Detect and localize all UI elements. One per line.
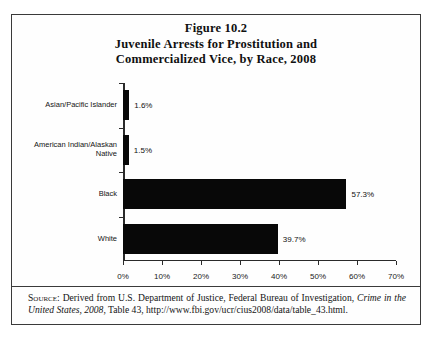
x-tick-mark xyxy=(162,261,163,265)
category-label: White xyxy=(17,234,117,244)
bar-row: 1.6% xyxy=(123,90,396,120)
x-tick-label: 50% xyxy=(310,272,326,281)
y-tick-mark xyxy=(119,217,123,218)
bar-value-label: 1.6% xyxy=(134,101,152,110)
source-text-part-2: , Table 43, http://www.fbi.gov/ucr/cius2… xyxy=(103,304,347,315)
figure-frame: Figure 10.2 Juvenile Arrests for Prostit… xyxy=(11,14,421,325)
x-tick-label: 0% xyxy=(117,272,129,281)
figure-title-line-2: Juvenile Arrests for Prostitution and xyxy=(12,37,420,53)
y-tick-mark xyxy=(119,83,123,84)
figure-title-line-3: Commercialized Vice, by Race, 2008 xyxy=(12,52,420,68)
bar-row: 57.3% xyxy=(123,179,396,209)
source-label: Source: xyxy=(28,292,60,303)
x-tick-label: 20% xyxy=(193,272,209,281)
source-note: Source: Derived from U.S. Department of … xyxy=(28,292,406,316)
category-label: American Indian/Alaskan Native xyxy=(17,140,117,159)
x-tick-label: 10% xyxy=(154,272,170,281)
bar xyxy=(123,90,129,120)
x-tick-label: 70% xyxy=(388,272,404,281)
bar-row: 1.5% xyxy=(123,135,396,165)
category-label: Asian/Pacific Islander xyxy=(17,100,117,110)
bar-value-label: 39.7% xyxy=(283,234,306,243)
figure-title-line-1: Figure 10.2 xyxy=(12,21,420,37)
bar xyxy=(123,135,129,165)
x-axis-line xyxy=(123,260,396,262)
x-tick-mark xyxy=(396,261,397,265)
x-tick-mark xyxy=(240,261,241,265)
bar-chart-plot-area: 0%10%20%30%40%50%60%70% 1.6%1.5%57.3%39.… xyxy=(123,83,396,261)
x-tick-mark xyxy=(279,261,280,265)
bar-value-label: 57.3% xyxy=(351,190,374,199)
category-label: Black xyxy=(17,189,117,199)
x-tick-mark xyxy=(123,261,124,265)
y-tick-mark xyxy=(119,172,123,173)
bar xyxy=(123,224,278,254)
x-tick-label: 30% xyxy=(232,272,248,281)
figure-title: Figure 10.2 Juvenile Arrests for Prostit… xyxy=(12,21,420,68)
source-divider xyxy=(12,286,420,287)
source-text-part-1: Derived from U.S. Department of Justice,… xyxy=(60,292,357,303)
x-tick-label: 60% xyxy=(349,272,365,281)
y-tick-mark xyxy=(119,128,123,129)
x-tick-label: 40% xyxy=(271,272,287,281)
bar-row: 39.7% xyxy=(123,224,396,254)
x-tick-mark xyxy=(357,261,358,265)
bar-value-label: 1.5% xyxy=(134,145,152,154)
x-tick-mark xyxy=(201,261,202,265)
x-tick-mark xyxy=(318,261,319,265)
bar xyxy=(123,179,346,209)
